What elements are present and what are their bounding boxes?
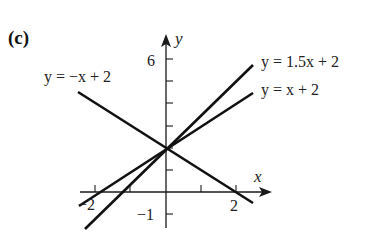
y-tick-label-6: 6 — [147, 52, 155, 69]
y-axis-label: y — [173, 29, 183, 48]
x-axis-label: x — [253, 167, 262, 186]
x-tick-label-2: 2 — [230, 197, 238, 214]
label-y-eq-x-plus-2: y = x + 2 — [261, 81, 319, 99]
y-tick-label-neg1: −1 — [137, 206, 154, 223]
linear-functions-chart: (c) 6 −1 −2 2 x y y = −x + 2 y = 1.5x + … — [0, 0, 373, 235]
y-ticks — [166, 59, 173, 214]
label-y-eq-neg-x-plus-2: y = −x + 2 — [44, 68, 111, 86]
panel-label: (c) — [8, 27, 29, 49]
x-tick-label-neg2: −2 — [78, 196, 95, 213]
label-y-eq-1.5x-plus-2: y = 1.5x + 2 — [261, 53, 339, 71]
